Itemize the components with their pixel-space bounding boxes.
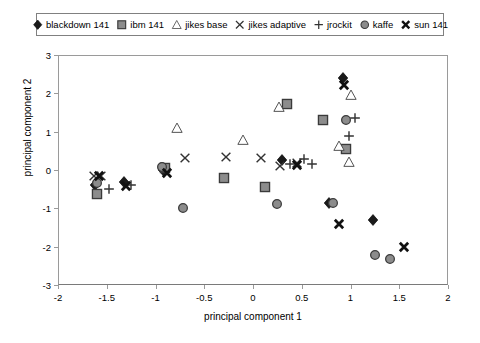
data-point (342, 129, 355, 142)
legend-item-ibm-141: ibm 141 (116, 19, 164, 31)
legend-item-label: jikes adaptive (248, 20, 306, 30)
data-point (273, 100, 286, 113)
data-point (305, 158, 318, 171)
legend-item-jrockit: jrockit (313, 19, 352, 31)
legend-item-label: kaffe (373, 20, 393, 30)
x-axis-tick-label: 0.5 (295, 292, 308, 303)
data-point (339, 114, 352, 127)
data-point (219, 150, 232, 163)
plot-area: 3210-1-2-3-2-1.5-1-0.500.511.52 (58, 55, 448, 285)
data-point (290, 158, 303, 171)
x-axis-tick (156, 285, 157, 289)
y-axis-tick (54, 132, 58, 133)
y-axis-tick-label: 1 (46, 126, 51, 137)
data-point (120, 179, 133, 192)
square-marker-icon (116, 19, 128, 31)
legend-item-label: blackdown 141 (46, 20, 109, 30)
x-axis-tick-label: 1.5 (393, 292, 406, 303)
data-point (102, 183, 115, 196)
y-axis-tick (54, 247, 58, 248)
x-axis-tick-label: -2 (54, 292, 62, 303)
y-axis-tick-label: 2 (46, 88, 51, 99)
data-point (368, 248, 381, 261)
y-axis-tick-label: 3 (46, 50, 51, 61)
chart-legend: blackdown 141ibm 141jikes basejikes adap… (36, 13, 444, 36)
x-axis-tick-label: 0 (250, 292, 255, 303)
y-axis-tick (54, 170, 58, 171)
data-point (342, 156, 355, 169)
data-point (332, 218, 345, 231)
x-axis-tick (302, 285, 303, 289)
data-point (383, 252, 396, 265)
x-axis-tick (253, 285, 254, 289)
data-point (254, 151, 267, 164)
y-axis-tick-label: 0 (46, 165, 51, 176)
x-axis-tick (107, 285, 108, 289)
legend-item-jikes-base: jikes base (171, 19, 227, 31)
data-point (366, 213, 379, 226)
y-axis-tick (54, 55, 58, 56)
x-axis-tick-label: 2 (445, 292, 450, 303)
x-axis-tick-label: 1 (348, 292, 353, 303)
legend-item-label: jikes base (185, 20, 227, 30)
x-axis-tick (204, 285, 205, 289)
legend-item-label: jrockit (327, 20, 352, 30)
data-point (397, 240, 410, 253)
legend-item-kaffe: kaffe (359, 19, 393, 31)
triangle-marker-icon (171, 19, 183, 31)
data-point (337, 78, 350, 91)
diamond-marker-icon (32, 19, 44, 31)
x-axis-tick (448, 285, 449, 289)
x-axis-title: principal component 1 (58, 311, 448, 322)
legend-item-blackdown-141: blackdown 141 (32, 19, 109, 31)
data-point (92, 169, 105, 182)
y-axis-tick-label: -3 (43, 280, 51, 291)
data-point (271, 197, 284, 210)
legend-item-label: sun 141 (414, 20, 448, 30)
chart-screenshot: { "chart": { "type": "scatter", "title":… (0, 0, 480, 343)
y-axis-title: principal component 2 (22, 38, 33, 218)
legend-item-sun-141: sun 141 (400, 19, 448, 31)
y-axis-tick (54, 93, 58, 94)
x-marker-icon (234, 19, 246, 31)
circle-marker-icon (359, 19, 371, 31)
y-axis-tick-label: -2 (43, 241, 51, 252)
x-axis-tick (58, 285, 59, 289)
y-axis-tick-label: -1 (43, 203, 51, 214)
x-axis-tick-label: -0.5 (196, 292, 212, 303)
y-axis-tick (54, 208, 58, 209)
x-axis-tick-label: -1.5 (99, 292, 115, 303)
plus-marker-icon (313, 19, 325, 31)
data-point (237, 133, 250, 146)
data-point (217, 171, 230, 184)
data-point (178, 151, 191, 164)
data-point (161, 166, 174, 179)
legend-item-jikes-adaptive: jikes adaptive (234, 19, 306, 31)
legend-item-label: ibm 141 (130, 20, 164, 30)
data-point (326, 196, 339, 209)
data-point (170, 121, 183, 134)
x-axis-tick-label: -1 (151, 292, 159, 303)
data-point (317, 114, 330, 127)
boldx-marker-icon (400, 19, 412, 31)
x-axis-tick (351, 285, 352, 289)
x-axis-tick (399, 285, 400, 289)
data-point (258, 181, 271, 194)
data-point (176, 202, 189, 215)
